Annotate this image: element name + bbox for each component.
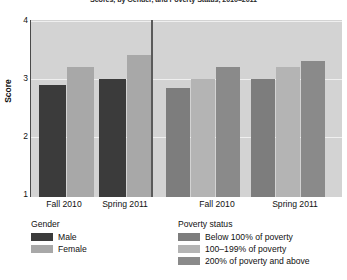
legend-swatch-female [31,245,53,253]
x-label-gender-fall: Fall 2010 [31,199,97,209]
legend-label-below100: Below 100% of poverty [205,232,293,242]
legend-item-below100[interactable]: Below 100% of poverty [178,231,310,243]
bar-poverty-fall-below100 [166,88,190,197]
bar-poverty-spring-100to199 [276,67,300,197]
chart-title: Scores, by Gender, and Poverty Status, 2… [0,0,347,4]
bar-poverty-spring-200plus [301,61,325,197]
y-axis-ticks: 4 3 2 1 [12,0,28,280]
legend-poverty: Poverty status Below 100% of poverty 100… [178,219,310,267]
bar-gender-fall-male [39,85,66,197]
x-label-gender-spring: Spring 2011 [92,199,158,209]
panel-gender [31,20,151,197]
chart-figure: Scores, by Gender, and Poverty Status, 2… [0,0,347,280]
legend-item-female[interactable]: Female [31,243,87,255]
gridline-4 [31,21,151,22]
legend-swatch-male [31,233,53,241]
legend-swatch-100to199 [178,245,200,253]
bar-gender-fall-female [67,67,94,197]
bar-poverty-spring-below100 [251,79,275,197]
bar-poverty-fall-200plus [216,67,240,197]
y-tick-4: 4 [14,16,28,25]
legend-label-female: Female [58,244,87,254]
legend-label-200plus: 200% of poverty and above [205,256,310,266]
legend-poverty-title: Poverty status [178,219,310,229]
legend-gender-title: Gender [31,219,87,229]
x-label-poverty-spring: Spring 2011 [262,199,328,209]
y-tick-3: 3 [14,74,28,83]
legend-swatch-200plus [178,257,200,265]
y-tick-2: 2 [14,132,28,141]
legend-gender: Gender Male Female [31,219,87,255]
legend-item-male[interactable]: Male [31,231,87,243]
bar-gender-spring-female [127,55,151,197]
gridline-4 [153,21,342,22]
legend-item-100to199[interactable]: 100–199% of poverty [178,243,310,255]
x-label-poverty-fall: Fall 2010 [184,199,250,209]
legend-item-200plus[interactable]: 200% of poverty and above [178,255,310,267]
bar-poverty-fall-100to199 [191,79,215,197]
legend-label-100to199: 100–199% of poverty [205,244,286,254]
legend-swatch-below100 [178,233,200,241]
panel-poverty [153,20,342,197]
bar-gender-spring-male [99,79,126,197]
y-tick-1: 1 [14,190,28,199]
legend-label-male: Male [58,232,77,242]
